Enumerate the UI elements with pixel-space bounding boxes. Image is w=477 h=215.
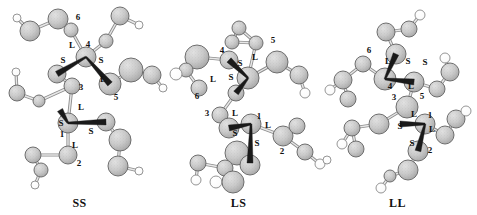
caption-ls: LS	[159, 196, 318, 211]
caption-ll: LL	[318, 196, 477, 211]
caption-ss: SS	[0, 196, 159, 211]
molecular-conformers-figure: 6L4SSL53LS1SL254LSSL63L1LSS26LSS4L35L1SL…	[0, 0, 477, 215]
panel-ls: LS	[159, 0, 318, 215]
panel-ss: SS	[0, 0, 159, 215]
panel-ll: LL	[318, 0, 477, 215]
